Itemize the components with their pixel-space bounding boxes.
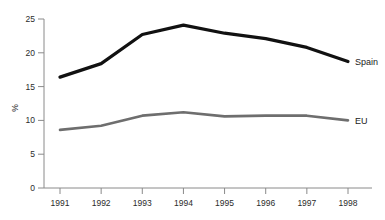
y-tick-label: 10 [26, 115, 36, 125]
y-tick-label: 0 [30, 183, 35, 193]
x-tick-label: 1992 [92, 198, 111, 208]
chart-canvas: 0510152025 19911992199319941995199619971… [0, 0, 385, 220]
y-tick-label: 25 [26, 14, 36, 24]
axis-group [44, 19, 372, 188]
x-tick-label: 1996 [256, 198, 275, 208]
x-tick-label: 1991 [51, 198, 70, 208]
x-tick-label: 1998 [339, 198, 358, 208]
series-line-spain [60, 25, 348, 77]
y-axis-title: % [10, 104, 20, 112]
y-tick-group: 0510152025 [26, 14, 44, 193]
series-label-group: SpainEU [355, 57, 378, 126]
x-tick-label: 1997 [297, 198, 316, 208]
y-tick-label: 15 [26, 82, 36, 92]
x-tick-label: 1993 [133, 198, 152, 208]
x-tick-label: 1995 [215, 198, 234, 208]
x-tick-group: 19911992199319941995199619971998 [51, 188, 358, 208]
x-tick-label: 1994 [174, 198, 193, 208]
y-tick-label: 5 [30, 149, 35, 159]
y-tick-label: 20 [26, 48, 36, 58]
series-line-eu [60, 112, 348, 130]
series-label-spain: Spain [355, 57, 378, 67]
series-group [60, 25, 348, 130]
series-label-eu: EU [355, 116, 368, 126]
line-chart: 0510152025 19911992199319941995199619971… [0, 0, 385, 220]
